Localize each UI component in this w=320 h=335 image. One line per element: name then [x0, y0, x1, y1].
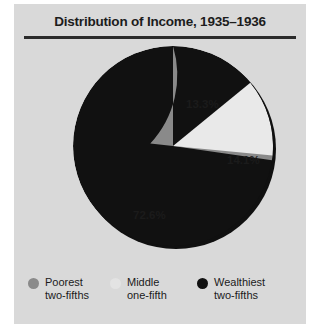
- legend-swatch-icon-middle: [110, 278, 121, 289]
- legend-line-1: Middle: [127, 276, 159, 288]
- legend-line-2: one-fifth: [127, 289, 167, 301]
- legend-item-poorest: Pooresttwo-fifths: [28, 276, 89, 302]
- legend-item-middle: Middleone-fifth: [110, 276, 167, 302]
- legend-line-1: Poorest: [45, 276, 83, 288]
- slice-value-label-middle: 13.3%: [186, 98, 219, 110]
- legend-swatch-icon-poorest: [28, 278, 39, 289]
- chart-legend: Pooresttwo-fifths Middleone-fifth Wealth…: [14, 276, 306, 318]
- slice-value-label-large: 72.6%: [133, 209, 166, 221]
- legend-label-middle: Middleone-fifth: [127, 276, 167, 302]
- pie-graphic: 13.3% 14.1% 72.6%: [73, 46, 275, 248]
- legend-label-poorest: Pooresttwo-fifths: [45, 276, 89, 302]
- legend-line-1: Wealthiest: [214, 276, 265, 288]
- slice-value-label-light: 14.1%: [227, 154, 260, 166]
- chart-title-band: Distribution of Income, 1935–1936: [14, 12, 306, 30]
- page-title: Distribution of Income, 1935–1936: [54, 14, 266, 29]
- pie-slices: [73, 46, 273, 246]
- legend-item-wealthiest: Wealthiesttwo-fifths: [197, 276, 265, 302]
- title-divider: [24, 36, 296, 39]
- legend-swatch-icon-wealthiest: [197, 278, 208, 289]
- legend-line-2: two-fifths: [214, 289, 258, 301]
- figure-panel: Distribution of Income, 1935–1936 13.3% …: [14, 4, 306, 324]
- legend-label-wealthiest: Wealthiesttwo-fifths: [214, 276, 265, 302]
- pie-svg: [73, 46, 273, 246]
- legend-line-2: two-fifths: [45, 289, 89, 301]
- pie-chart: 13.3% 14.1% 72.6%: [14, 40, 306, 272]
